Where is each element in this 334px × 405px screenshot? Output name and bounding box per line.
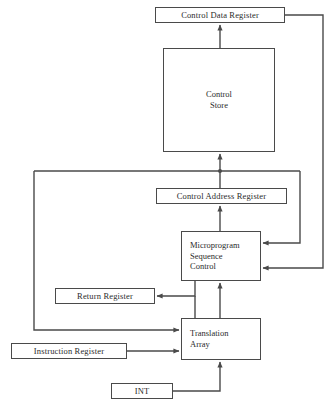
node-return-register[interactable]: Return Register (55, 288, 155, 304)
node-microprogram-sequence-control-label: Microprogram Sequence Control (190, 240, 240, 273)
node-int[interactable]: INT (111, 383, 173, 399)
node-return-register-label: Return Register (77, 291, 133, 302)
node-translation-array[interactable]: Translation Array (181, 318, 261, 360)
node-control-data-register-label: Control Data Register (181, 10, 259, 21)
node-microprogram-sequence-control[interactable]: Microprogram Sequence Control (181, 231, 261, 281)
node-control-store-label: Control Store (206, 89, 232, 111)
node-control-data-register[interactable]: Control Data Register (155, 7, 285, 23)
edge-int-to-translation-array (173, 362, 220, 391)
node-int-label: INT (135, 386, 150, 397)
node-instruction-register-label: Instruction Register (34, 346, 104, 357)
microprogrammed-control-unit-diagram: Control Data Register Control Store Cont… (0, 0, 334, 405)
node-translation-array-label: Translation Array (190, 328, 228, 350)
node-control-address-register-label: Control Address Register (177, 191, 267, 202)
node-instruction-register[interactable]: Instruction Register (11, 343, 127, 359)
bus-junction-dot (218, 169, 222, 173)
edge-control-address-feedback-to-microprogram-sequence-control (263, 171, 300, 243)
node-control-address-register[interactable]: Control Address Register (156, 188, 287, 204)
edge-microprogram-sequence-control-to-return-register (157, 281, 195, 296)
node-control-store[interactable]: Control Store (163, 48, 275, 152)
